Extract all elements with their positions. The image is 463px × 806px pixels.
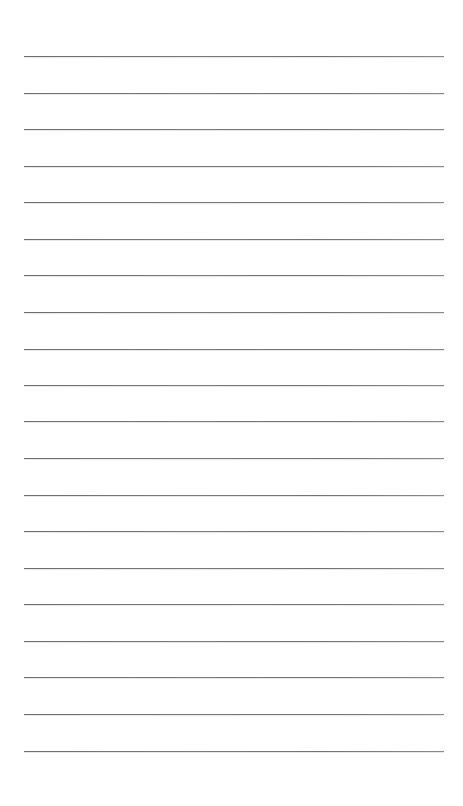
lined-paper-page xyxy=(0,0,463,806)
ruled-line xyxy=(24,202,444,203)
ruled-line xyxy=(24,93,444,94)
ruled-line xyxy=(24,349,444,350)
ruled-line xyxy=(24,714,444,715)
ruled-line xyxy=(24,239,444,240)
ruled-line xyxy=(24,531,444,532)
ruled-line xyxy=(24,604,444,605)
ruled-line xyxy=(24,129,444,130)
ruled-line xyxy=(24,421,444,422)
ruled-line xyxy=(24,385,444,386)
ruled-line xyxy=(24,458,444,459)
ruled-line xyxy=(24,275,444,276)
ruled-line xyxy=(24,495,444,496)
ruled-line xyxy=(24,166,444,167)
ruled-line xyxy=(24,641,444,642)
ruled-line xyxy=(24,677,444,678)
ruled-line xyxy=(24,568,444,569)
ruled-line xyxy=(24,56,444,57)
ruled-line xyxy=(24,751,444,752)
ruled-line xyxy=(24,312,444,313)
